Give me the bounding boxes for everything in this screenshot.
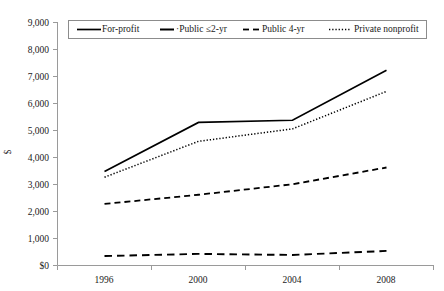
- line-chart: 9,000 8,000 7,000 6,000 5,000 4,000 3,00…: [0, 0, 444, 291]
- y-tick-label-7000: 7,000: [28, 72, 50, 82]
- y-tick-label-6000: 6,000: [28, 99, 50, 109]
- legend-label-public-2yr: ·Public ≤2-yr: [176, 24, 228, 34]
- y-tick-label-9000: 9,000: [28, 18, 50, 28]
- x-tick-label-1996: 1996: [95, 275, 114, 285]
- x-tick-label-2000: 2000: [189, 275, 208, 285]
- chart-legend: For-profit ·Public ≤2-yr Public 4-yr Pri…: [69, 21, 427, 39]
- y-tick-label-5000: 5,000: [28, 126, 50, 136]
- legend-label-private-nonprofit: Private nonprofit: [354, 24, 419, 34]
- y-tick-label-3000: 3,000: [28, 180, 50, 190]
- chart-canvas: 9,000 8,000 7,000 6,000 5,000 4,000 3,00…: [0, 0, 444, 291]
- x-tick-label-2008: 2008: [377, 275, 396, 285]
- y-tick-label-2000: 2,000: [28, 207, 50, 217]
- legend-label-for-profit: For-profit: [102, 24, 140, 34]
- y-tick-label-1000: 1,000: [28, 234, 50, 244]
- chart-background: [0, 0, 444, 291]
- y-tick-label-0: $0: [40, 261, 50, 271]
- legend-label-public-4yr: Public 4-yr: [262, 24, 305, 34]
- x-tick-label-2004: 2004: [283, 275, 302, 285]
- y-tick-label-4000: 4,000: [28, 153, 50, 163]
- y-tick-label-8000: 8,000: [28, 45, 50, 55]
- y-axis-title: $: [3, 149, 13, 154]
